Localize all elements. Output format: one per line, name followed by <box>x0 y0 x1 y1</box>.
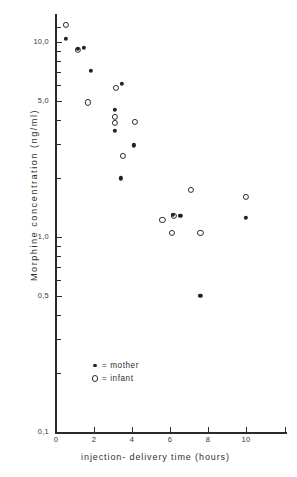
legend-label-mother: = mother <box>102 359 139 372</box>
legend: = mother = infant <box>90 359 139 385</box>
y-tick-major <box>57 237 63 238</box>
y-tick-minor <box>57 27 61 28</box>
data-point-infant <box>75 47 81 53</box>
data-point-mother <box>198 294 202 298</box>
x-tick-label: 10 <box>241 436 250 444</box>
x-tick <box>94 427 95 432</box>
x-tick-label: 2 <box>92 436 97 444</box>
legend-item-infant: = infant <box>90 372 139 385</box>
open-circle-icon <box>90 375 100 381</box>
y-tick-minor <box>57 267 61 268</box>
y-tick-minor <box>57 144 61 145</box>
y-tick-major <box>57 432 63 433</box>
data-point-infant <box>119 153 125 159</box>
y-tick-major <box>57 42 63 43</box>
legend-label-infant: = infant <box>102 372 134 385</box>
data-point-mother <box>81 46 85 50</box>
data-point-mother <box>63 37 67 41</box>
y-tick-minor <box>57 246 61 247</box>
y-tick-major <box>57 296 63 297</box>
x-tick-label: 0 <box>54 436 59 444</box>
y-tick-minor <box>57 61 61 62</box>
y-axis-title: Morphine concentration (ng/ml) <box>29 65 39 325</box>
x-axis-line <box>55 432 287 434</box>
x-tick-label: 6 <box>168 436 173 444</box>
data-point-mother <box>244 216 248 220</box>
y-tick-minor <box>57 280 61 281</box>
data-point-mother <box>119 82 123 86</box>
data-point-infant <box>85 99 91 105</box>
data-point-infant <box>243 194 249 200</box>
x-axis-title-text: injection- delivery time (hours) <box>67 452 230 462</box>
figure-canvas: 0,10,51,05,010,0 0246810 Morphine concen… <box>0 0 297 477</box>
y-tick-minor <box>57 339 61 340</box>
y-tick-label: 10,0 <box>23 38 49 45</box>
filled-circle-icon <box>90 364 100 368</box>
y-tick-minor <box>57 120 61 121</box>
y-tick-minor <box>57 85 61 86</box>
data-point-infant <box>62 22 68 28</box>
x-tick <box>246 427 247 432</box>
x-tick-label: 8 <box>206 436 211 444</box>
data-point-infant <box>112 120 118 126</box>
x-tick <box>56 427 57 432</box>
x-tick <box>132 427 133 432</box>
y-tick-minor <box>57 315 61 316</box>
data-point-mother <box>89 69 93 73</box>
data-point-infant <box>132 119 138 125</box>
data-point-mother <box>118 176 122 180</box>
data-point-infant <box>171 213 177 219</box>
data-point-mother <box>113 129 117 133</box>
data-point-mother <box>113 107 117 111</box>
data-point-infant <box>159 216 165 222</box>
data-point-mother <box>178 214 182 218</box>
data-point-infant <box>197 230 203 236</box>
y-tick-minor <box>57 373 61 374</box>
y-tick-label: 0,1 <box>23 428 49 435</box>
x-tick <box>208 427 209 432</box>
x-tick-label: 4 <box>130 436 135 444</box>
data-point-mother <box>132 143 136 147</box>
y-tick-minor <box>57 178 61 179</box>
y-tick-minor <box>57 256 61 257</box>
legend-item-mother: = mother <box>90 359 139 372</box>
y-tick-minor <box>57 72 61 73</box>
x-tick <box>170 427 171 432</box>
y-tick-major <box>57 101 63 102</box>
data-point-infant <box>113 85 119 91</box>
data-point-infant <box>188 187 194 193</box>
x-axis-title: injection- delivery time (hours) <box>0 452 297 462</box>
y-tick-minor <box>57 51 61 52</box>
data-point-infant <box>112 113 118 119</box>
x-axis-end-tick <box>285 427 286 432</box>
y-axis-line <box>55 14 57 433</box>
data-point-infant <box>169 230 175 236</box>
